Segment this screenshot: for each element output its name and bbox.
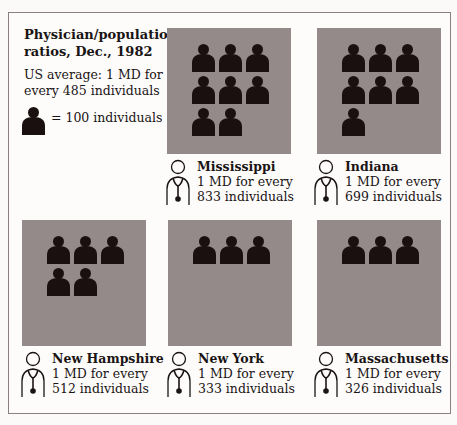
panel-new-york <box>168 220 292 346</box>
person-icon <box>396 235 419 264</box>
state-name: New Hampshire <box>52 351 164 366</box>
state-name: New York <box>198 351 295 366</box>
legend: = 100 individuals <box>22 106 162 135</box>
us-average-note: US average: 1 MD for every 485 individua… <box>24 67 164 99</box>
person-icon <box>369 43 392 72</box>
person-icon <box>74 235 97 264</box>
person-icon <box>369 235 392 264</box>
caption-indiana: Indiana 1 MD for every 699 individuals <box>313 159 442 205</box>
person-icon <box>369 75 392 104</box>
ratio-line2: 326 individuals <box>345 381 448 396</box>
person-icon <box>219 75 242 104</box>
ratio-line1: 1 MD for every <box>345 366 448 381</box>
chart-title: Physician/population ratios, Dec., 1982 <box>24 26 164 60</box>
state-name: Massachusetts <box>345 351 448 366</box>
person-icon <box>47 235 70 264</box>
person-icon <box>342 75 365 104</box>
state-name: Mississippi <box>197 159 294 174</box>
ratio-line2: 699 individuals <box>345 189 442 204</box>
ratio-line1: 1 MD for every <box>197 174 294 189</box>
panel-massachusetts <box>317 220 441 346</box>
ratio-line2: 512 individuals <box>52 381 164 396</box>
ratio-line1: 1 MD for every <box>52 366 164 381</box>
person-icon <box>74 267 97 296</box>
person-icon <box>342 235 365 264</box>
doctor-stethoscope-icon <box>166 351 194 397</box>
person-icon <box>192 43 215 72</box>
caption-mississippi: Mississippi 1 MD for every 833 individua… <box>165 159 294 205</box>
person-icon <box>192 75 215 104</box>
person-icon <box>219 107 242 136</box>
person-icon <box>193 235 216 264</box>
doctor-stethoscope-icon <box>165 159 193 205</box>
caption-massachusetts: Massachusetts 1 MD for every 326 individ… <box>313 351 448 397</box>
doctor-stethoscope-icon <box>313 159 341 205</box>
doctor-stethoscope-icon <box>20 351 48 397</box>
person-icon <box>22 106 45 135</box>
person-icon <box>342 43 365 72</box>
panel-indiana <box>317 28 441 154</box>
doctor-stethoscope-icon <box>313 351 341 397</box>
caption-new-york: New York 1 MD for every 333 individuals <box>166 351 295 397</box>
ratio-line1: 1 MD for every <box>198 366 295 381</box>
caption-new-hampshire: New Hampshire 1 MD for every 512 individ… <box>20 351 164 397</box>
ratio-line2: 333 individuals <box>198 381 295 396</box>
person-icon <box>220 235 243 264</box>
person-icon <box>247 235 270 264</box>
person-icon <box>192 107 215 136</box>
person-icon <box>219 43 242 72</box>
state-name: Indiana <box>345 159 442 174</box>
person-icon <box>101 235 124 264</box>
legend-label: = 100 individuals <box>51 110 162 125</box>
person-icon <box>396 75 419 104</box>
panel-new-hampshire <box>22 220 146 346</box>
person-icon <box>396 43 419 72</box>
person-icon <box>342 107 365 136</box>
panel-mississippi <box>167 28 291 154</box>
person-icon <box>246 43 269 72</box>
person-icon <box>246 75 269 104</box>
person-icon <box>47 267 70 296</box>
ratio-line2: 833 individuals <box>197 189 294 204</box>
ratio-line1: 1 MD for every <box>345 174 442 189</box>
